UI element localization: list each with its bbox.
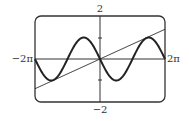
- y-max-label: 2: [97, 3, 103, 14]
- graph: −2π 2π 2 −2: [0, 0, 189, 121]
- x-min-label: −2π: [12, 53, 34, 64]
- x-max-label: 2π: [167, 53, 180, 64]
- y-min-label: −2: [93, 104, 108, 115]
